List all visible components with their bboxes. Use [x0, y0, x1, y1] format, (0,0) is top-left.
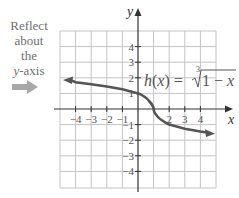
x-tick-neg2: −2 [101, 113, 113, 125]
y-tick-4: 4 [129, 41, 135, 53]
y-axis-label: y [125, 4, 134, 19]
function-graph: −4 −3 −2 −1 2 3 4 4 3 2 1 −1 −2 −3 −4 y … [0, 0, 239, 198]
root-index: 3 [196, 65, 200, 74]
func-name: h [144, 72, 152, 89]
y-axis-arrow-icon [135, 8, 142, 16]
y-tick-3: 3 [129, 56, 135, 68]
y-tick-neg4: −4 [122, 165, 134, 177]
svg-text:h(x) =: h(x) = [144, 72, 183, 90]
x-tick-neg4: −4 [70, 113, 82, 125]
func-equals: = [174, 72, 183, 89]
x-tick-3: 3 [182, 113, 188, 125]
func-arg: x [156, 72, 164, 89]
y-tick-neg3: −3 [122, 150, 134, 162]
curve-right-arrow-icon [205, 129, 215, 137]
radicand: 1 − x [202, 72, 234, 89]
y-tick-2: 2 [129, 72, 135, 84]
x-tick-neg3: −3 [85, 113, 97, 125]
x-axis-label: x [227, 112, 235, 127]
y-tick-neg1: −1 [122, 119, 134, 131]
y-tick-neg2: −2 [122, 134, 134, 146]
x-tick-4: 4 [198, 113, 204, 125]
